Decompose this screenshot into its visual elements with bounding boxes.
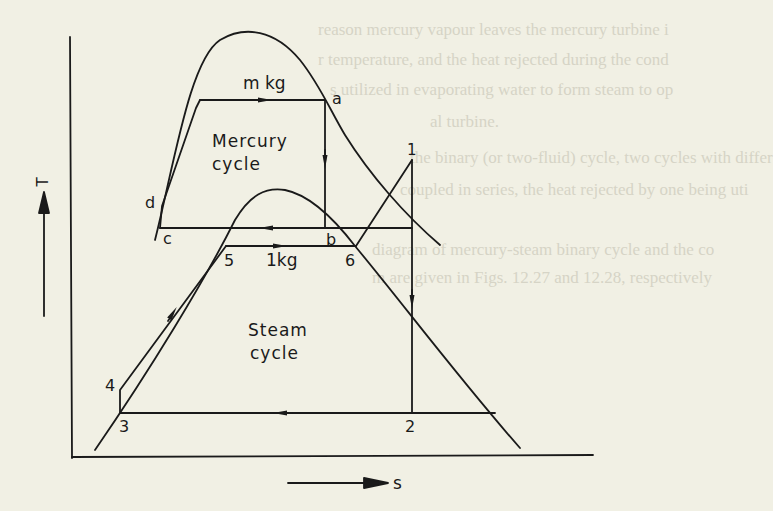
mercury-cycle-label-line2: cycle <box>212 154 261 174</box>
point-4-label: 4 <box>105 376 115 395</box>
point-3-label: 3 <box>119 417 129 436</box>
x-axis-label: s <box>393 473 402 493</box>
point-c-label: c <box>163 229 172 248</box>
point-1-label: 1 <box>407 141 417 159</box>
s-arrow-head <box>364 478 388 488</box>
point-2-label: 2 <box>405 417 415 436</box>
steam-superheat-6-1 <box>356 160 412 246</box>
steam-cycle-label-line1: Steam <box>248 320 308 340</box>
point-a-label: a <box>332 89 342 108</box>
mercury-pump-heating-c-d <box>160 100 200 228</box>
point-5-label: 5 <box>224 251 234 270</box>
x-axis <box>72 455 593 457</box>
mercury-mass-label: m kg <box>243 73 286 93</box>
steam-mass-label: 1kg <box>266 250 297 270</box>
mercury-saturation-dome <box>155 32 440 245</box>
t-arrow-head <box>39 192 49 213</box>
mercury-cycle-label-line1: Mercury <box>212 131 288 151</box>
point-d-label: d <box>145 193 155 212</box>
point-b-label: b <box>326 230 336 249</box>
point-6-label: 6 <box>345 251 355 270</box>
steam-cycle-label-line2: cycle <box>250 343 299 363</box>
y-axis-label: T <box>34 177 52 188</box>
y-axis <box>70 37 72 458</box>
